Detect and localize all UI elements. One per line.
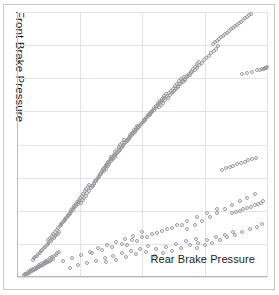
data-point — [174, 242, 178, 246]
data-point — [196, 241, 200, 245]
x-tick-label: — — [161, 276, 164, 277]
data-point — [253, 192, 257, 196]
x-tick-label: — — [177, 276, 180, 277]
data-point — [124, 255, 128, 259]
data-point — [248, 227, 252, 231]
data-point — [68, 266, 72, 270]
x-tick-label: — — [74, 276, 77, 277]
x-tick-label: — — [264, 276, 267, 277]
data-point — [57, 250, 61, 254]
x-tick-label: — — [181, 276, 184, 277]
x-tick-label: — — [86, 276, 89, 277]
x-tick-label: — — [102, 276, 105, 277]
x-tick-label: — — [54, 276, 57, 277]
data-point — [160, 229, 164, 233]
data-point — [61, 259, 65, 263]
x-tick-label: — — [237, 276, 240, 277]
data-point — [164, 245, 168, 249]
data-point — [104, 260, 108, 264]
data-point — [94, 259, 98, 263]
data-point — [145, 235, 149, 239]
data-point — [230, 203, 234, 207]
scatter-plot-figure: Front Brake Pressure Rear Brake Pressure… — [0, 0, 279, 295]
x-tick-label: — — [213, 276, 216, 277]
data-point — [195, 246, 199, 250]
x-tick-label: — — [253, 276, 256, 277]
x-tick-label: — — [225, 276, 228, 277]
data-point — [140, 235, 144, 239]
data-point — [130, 238, 134, 242]
x-tick-label: — — [94, 276, 97, 277]
x-tick-label: — — [201, 276, 204, 277]
data-point — [76, 263, 80, 267]
data-point — [140, 230, 144, 234]
data-point — [254, 156, 258, 160]
x-tick-label: — — [205, 276, 208, 277]
data-point — [154, 247, 158, 251]
data-point — [85, 261, 89, 265]
data-point — [129, 249, 133, 253]
x-tick-label: — — [114, 276, 117, 277]
x-tick-label: — — [66, 276, 69, 277]
x-tick-label: — — [256, 276, 259, 277]
data-point — [250, 70, 254, 74]
grid-line-vertical — [267, 12, 268, 277]
x-tick-label: — — [46, 276, 49, 277]
x-tick-label: — — [245, 276, 248, 277]
x-tick-label: — — [233, 276, 236, 277]
data-point — [249, 12, 253, 16]
data-point — [170, 249, 174, 253]
data-point — [205, 238, 209, 242]
x-tick-label: — — [149, 276, 152, 277]
data-point — [265, 65, 269, 69]
x-tick-label: — — [145, 276, 148, 277]
data-point — [90, 251, 94, 255]
x-tick-label: — — [18, 276, 21, 277]
x-tick-label: — — [229, 276, 232, 277]
data-point — [260, 222, 264, 226]
data-point — [218, 238, 222, 242]
data-point — [114, 258, 118, 262]
data-point — [185, 219, 189, 223]
x-tick-label: — — [185, 276, 188, 277]
x-tick-label: — — [58, 276, 61, 277]
x-tick-label: — — [193, 276, 196, 277]
data-point — [203, 243, 207, 247]
x-tick-label: — — [189, 276, 192, 277]
x-tick-label: — — [22, 276, 25, 277]
x-tick-label: — — [133, 276, 136, 277]
y-axis-tick-labels — [0, 12, 16, 277]
data-point — [180, 223, 184, 227]
x-tick-label: — — [38, 276, 41, 277]
data-point — [240, 72, 244, 76]
x-tick-label: — — [34, 276, 37, 277]
x-tick-label: — — [126, 276, 129, 277]
x-tick-label: — — [141, 276, 144, 277]
x-tick-label: — — [165, 276, 168, 277]
data-point — [110, 245, 114, 249]
data-point — [114, 240, 118, 244]
data-point — [240, 230, 244, 234]
data-point — [146, 244, 150, 248]
x-tick-label: — — [197, 276, 200, 277]
data-point — [100, 248, 104, 252]
data-point — [210, 241, 214, 245]
x-tick-label: — — [221, 276, 224, 277]
data-point — [216, 44, 220, 48]
x-tick-label: — — [78, 276, 81, 277]
x-tick-label: — — [98, 276, 101, 277]
x-tick-label: — — [173, 276, 176, 277]
data-point — [105, 243, 109, 247]
data-point — [150, 232, 154, 236]
x-tick-label: — — [70, 276, 73, 277]
x-tick-label: — — [26, 276, 29, 277]
data-point — [120, 251, 124, 255]
x-tick-label: — — [90, 276, 93, 277]
data-point — [208, 215, 212, 219]
x-axis-title: Rear Brake Pressure — [150, 253, 255, 265]
data-point — [193, 223, 197, 227]
x-tick-label: — — [249, 276, 252, 277]
data-point — [195, 215, 199, 219]
plot-area: Rear Brake Pressure — [17, 12, 267, 277]
x-tick-label: — — [260, 276, 263, 277]
